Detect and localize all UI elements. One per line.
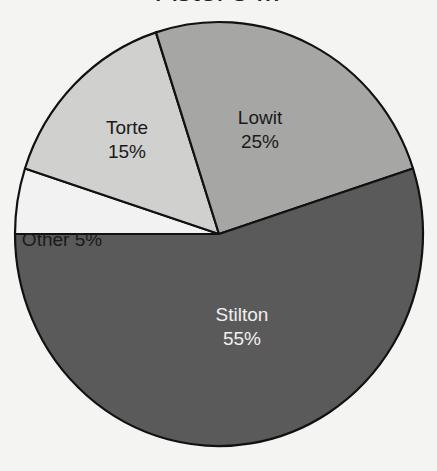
slice-label-torte: Torte bbox=[106, 117, 148, 138]
slice-label-stilton: Stilton bbox=[216, 304, 269, 325]
slice-value-lowit: 25% bbox=[241, 131, 279, 152]
slice-value-torte: 15% bbox=[108, 141, 146, 162]
slice-label-other: Other 5% bbox=[22, 229, 102, 250]
pie-chart: Other 5%Torte15%Lowit25%Stilton55% bbox=[0, 0, 437, 471]
slice-label-lowit: Lowit bbox=[238, 107, 283, 128]
slice-value-stilton: 55% bbox=[223, 328, 261, 349]
